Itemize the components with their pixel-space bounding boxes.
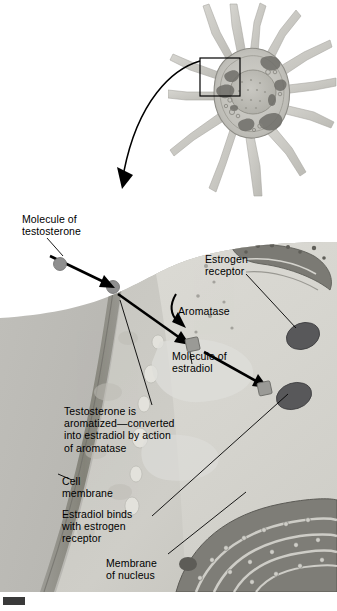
label-molecule-of-estradiol: Molecule of estradiol xyxy=(172,350,227,374)
label-membrane-of-nucleus: Membrane of nucleus xyxy=(106,557,157,581)
label-testosterone-aromatized: Testosterone is aromatized—converted int… xyxy=(64,405,175,454)
registration-mark xyxy=(3,597,25,605)
label-aromatase: Aromatase xyxy=(178,305,230,317)
estradiol-molecule-bound xyxy=(257,381,272,396)
magnification-arrow xyxy=(60,55,220,200)
label-molecule-of-testosterone: Molecule of testosterone xyxy=(22,213,81,237)
label-cell-membrane: Cell membrane xyxy=(62,475,113,499)
dark-granule xyxy=(179,557,197,571)
label-estrogen-receptor: Estrogen receptor xyxy=(205,253,248,277)
figure-root: Molecule of testosterone Estrogen recept… xyxy=(0,0,337,611)
label-estradiol-binds: Estradiol binds with estrogen receptor xyxy=(62,508,132,545)
testosterone-molecule-outside xyxy=(48,252,72,276)
